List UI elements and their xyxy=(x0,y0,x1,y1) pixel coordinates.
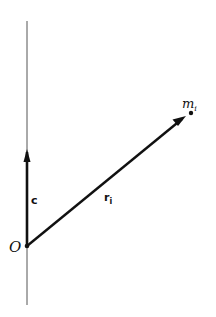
diagram-canvas: O c ri mi xyxy=(0,0,216,317)
mass-label-sub: i xyxy=(194,104,197,113)
vector-r-i-label-sub: i xyxy=(109,197,112,206)
origin-label: O xyxy=(9,238,21,256)
mass-label-base: m xyxy=(182,96,194,111)
vector-c-arrowhead xyxy=(24,149,31,162)
vector-r-i xyxy=(27,119,182,246)
vector-c-label: c xyxy=(31,194,38,207)
mass-label: mi xyxy=(182,96,197,113)
mass-point xyxy=(189,111,193,115)
vector-r-i-label: ri xyxy=(104,191,112,206)
origin-point xyxy=(25,244,30,249)
